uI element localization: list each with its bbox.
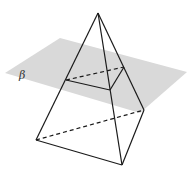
edge-base_left-base_back [36,110,144,140]
edge-base_front-base_back [122,110,144,165]
plane-label: β [18,69,25,82]
plane-beta [5,38,187,113]
pyramid-plane-diagram: β [0,0,196,174]
edge-base_left-base_front [36,140,122,165]
